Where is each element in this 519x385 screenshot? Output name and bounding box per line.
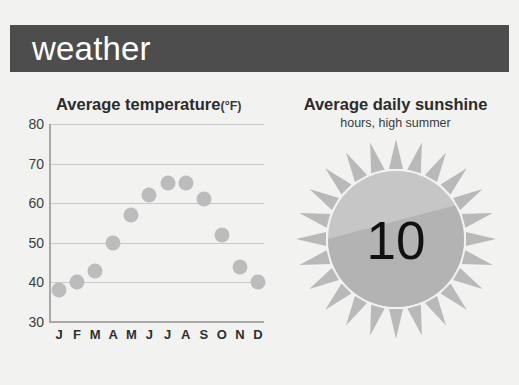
sun-ray — [407, 142, 422, 173]
sun-ray — [407, 305, 422, 336]
sun-ray — [296, 232, 326, 246]
scatter-point — [196, 192, 211, 207]
scatter-point — [52, 283, 67, 298]
header-bar: weather — [10, 25, 509, 72]
sun-ray — [370, 305, 385, 336]
x-axis-tick-label: N — [231, 327, 249, 343]
sunshine-subtitle: hours, high summer — [288, 116, 503, 130]
gridline — [51, 243, 264, 244]
gridline — [51, 124, 264, 125]
y-axis-tick-label: 40 — [18, 275, 44, 289]
sun-ray — [466, 232, 496, 246]
x-axis-tick-label: A — [104, 327, 122, 343]
sun-ray — [453, 268, 482, 289]
y-axis-tick-label: 60 — [18, 196, 44, 210]
sun-graphic: 10 — [290, 137, 502, 342]
sun-ray — [346, 152, 367, 181]
x-axis-tick-label: O — [213, 327, 231, 343]
sunshine-hours-value: 10 — [367, 211, 426, 270]
temperature-chart-panel: Average temperature(°F) 807060504030 JFM… — [18, 95, 286, 360]
sun-ray — [346, 296, 367, 325]
x-axis-tick-label: M — [86, 327, 104, 343]
x-axis-tick-label: D — [249, 327, 267, 343]
x-axis-tick-label: J — [140, 327, 158, 343]
sun-ray — [389, 309, 403, 339]
y-axis-tick-label: 30 — [18, 315, 44, 329]
y-axis-line — [49, 124, 51, 322]
sun-ray — [299, 250, 330, 265]
sun-ray — [441, 168, 467, 194]
sunshine-title: Average daily sunshine — [288, 95, 503, 114]
x-axis-tick-label: F — [68, 327, 86, 343]
scatter-point — [178, 176, 193, 191]
gridline — [51, 164, 264, 165]
x-axis-line — [49, 321, 264, 323]
scatter-point — [124, 208, 139, 223]
weather-infographic-card: weather Average temperature(°F) 80706050… — [0, 0, 519, 385]
page-title: weather — [32, 29, 151, 69]
temperature-chart-unit: (°F) — [220, 99, 241, 113]
y-axis-tick-label: 70 — [18, 157, 44, 171]
scatter-point — [251, 275, 266, 290]
x-axis-tick-label: A — [177, 327, 195, 343]
sun-ray — [325, 168, 351, 194]
x-axis-tick-label: J — [50, 327, 68, 343]
scatter-point — [70, 275, 85, 290]
sun-ray — [425, 296, 446, 325]
scatter-point — [106, 235, 121, 250]
x-axis-tick-label: J — [159, 327, 177, 343]
scatter-point — [160, 176, 175, 191]
sun-ray — [325, 284, 351, 310]
scatter-point — [232, 259, 247, 274]
scatter-point — [142, 188, 157, 203]
y-axis-tick-label: 50 — [18, 236, 44, 250]
sun-ray — [389, 139, 403, 169]
sun-svg: 10 — [290, 137, 502, 342]
gridline — [51, 203, 264, 204]
scatter-point — [88, 263, 103, 278]
sun-ray — [425, 152, 446, 181]
sun-ray — [299, 213, 330, 228]
sun-ray — [462, 250, 493, 265]
temperature-chart-title: Average temperature(°F) — [56, 95, 241, 114]
x-axis-tick-label: S — [195, 327, 213, 343]
sunshine-panel: Average daily sunshine hours, high summe… — [288, 95, 513, 360]
sun-ray — [309, 268, 338, 289]
sun-ray — [309, 189, 338, 210]
sun-ray — [370, 142, 385, 173]
temperature-chart-title-text: Average temperature — [56, 95, 220, 113]
y-axis-tick-label: 80 — [18, 117, 44, 131]
scatter-point — [214, 227, 229, 242]
x-axis-tick-label: M — [122, 327, 140, 343]
sun-ray — [462, 213, 493, 228]
sun-ray — [453, 189, 482, 210]
sun-ray — [441, 284, 467, 310]
